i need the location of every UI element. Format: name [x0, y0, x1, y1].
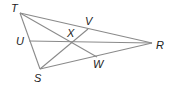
label-x: X: [67, 28, 74, 39]
segment-ur: [29, 41, 152, 43]
label-s: S: [34, 73, 41, 84]
label-u: U: [16, 36, 24, 47]
label-w: W: [93, 59, 103, 70]
label-v: V: [85, 16, 92, 27]
triangle-diagram: [0, 0, 175, 93]
label-t: T: [11, 3, 18, 14]
label-r: R: [156, 40, 164, 51]
